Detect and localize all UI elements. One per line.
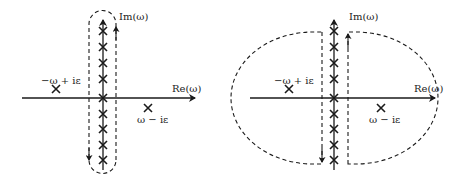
right-panel: Im(ω) Re(ω) −ω + iε ω − iε [231, 11, 444, 170]
pole-lower-right-label: ω − iε [369, 114, 400, 125]
re-axis-label: Re(ω) [172, 83, 202, 94]
pole-upper-left-label: −ω + iε [274, 75, 314, 86]
pole-upper-left-cross-icon [52, 85, 60, 93]
pole-lower-right-label: ω − iε [137, 114, 168, 125]
re-axis-label: Re(ω) [414, 83, 444, 94]
im-axis-label: Im(ω) [119, 11, 148, 22]
left-panel: Im(ω) Re(ω) −ω + iε ω − iε [22, 11, 202, 174]
diagram-svg: Im(ω) Re(ω) −ω + iε ω − iε Im(ω) [0, 0, 461, 181]
im-axis-label: Im(ω) [349, 11, 378, 22]
pole-upper-left-label: −ω + iε [41, 75, 81, 86]
pole-upper-left-cross-icon [285, 85, 293, 93]
pole-lower-right-cross-icon [144, 104, 152, 112]
contour-diagram: Im(ω) Re(ω) −ω + iε ω − iε Im(ω) [0, 0, 461, 181]
pole-lower-right-cross-icon [377, 104, 385, 112]
